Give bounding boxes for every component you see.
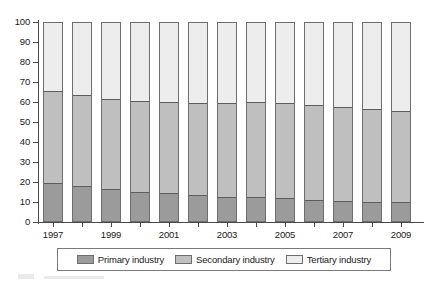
segment-tertiary bbox=[218, 23, 236, 103]
segment-secondary bbox=[334, 107, 352, 203]
bar-2008 bbox=[362, 22, 382, 222]
y-axis-tick bbox=[33, 202, 38, 203]
bar-2006 bbox=[304, 22, 324, 222]
x-axis-tick-label: 2003 bbox=[207, 229, 247, 240]
y-axis-tick-label: 70 bbox=[0, 77, 30, 86]
y-axis-tick-label: 80 bbox=[0, 57, 30, 66]
y-axis-tick-label: 50 bbox=[0, 117, 30, 126]
segment-tertiary bbox=[363, 23, 381, 109]
x-axis-tick-label: 2005 bbox=[265, 229, 305, 240]
legend-item-secondary: Secondary industry bbox=[175, 254, 275, 265]
x-axis-tick-label: 1999 bbox=[91, 229, 131, 240]
y-axis-tick-label: 90 bbox=[0, 37, 30, 46]
x-axis-tick-label: 2001 bbox=[149, 229, 189, 240]
segment-tertiary bbox=[102, 23, 120, 99]
y-axis-tick bbox=[33, 82, 38, 83]
segment-tertiary bbox=[160, 23, 178, 102]
x-axis-tick bbox=[227, 222, 228, 227]
segment-tertiary bbox=[44, 23, 62, 91]
x-axis-line bbox=[36, 222, 424, 223]
segment-secondary bbox=[160, 102, 178, 195]
segment-primary bbox=[334, 201, 352, 221]
scan-artifact bbox=[44, 276, 104, 279]
bar-2005 bbox=[275, 22, 295, 222]
bar-2003 bbox=[217, 22, 237, 222]
y-axis-tick-label: 20 bbox=[0, 177, 30, 186]
segment-primary bbox=[131, 192, 149, 221]
segment-tertiary bbox=[131, 23, 149, 101]
y-axis-tick bbox=[33, 162, 38, 163]
legend-swatch-secondary-icon bbox=[175, 255, 192, 264]
x-axis-tick bbox=[82, 222, 83, 227]
segment-primary bbox=[102, 189, 120, 221]
segment-primary bbox=[363, 202, 381, 221]
segment-tertiary bbox=[276, 23, 294, 103]
segment-primary bbox=[189, 195, 207, 221]
segment-secondary bbox=[102, 99, 120, 191]
bar-2007 bbox=[333, 22, 353, 222]
segment-secondary bbox=[44, 91, 62, 185]
segment-primary bbox=[73, 186, 91, 221]
x-axis-tick bbox=[372, 222, 373, 227]
x-axis-tick bbox=[285, 222, 286, 227]
segment-tertiary bbox=[189, 23, 207, 103]
y-axis-tick-label: 0 bbox=[0, 217, 30, 226]
y-axis-tick-label: 30 bbox=[0, 157, 30, 166]
legend-swatch-primary-icon bbox=[77, 255, 94, 264]
y-axis-tick bbox=[33, 62, 38, 63]
y-axis-line bbox=[38, 20, 39, 224]
y-axis-tick bbox=[33, 42, 38, 43]
segment-tertiary bbox=[73, 23, 91, 95]
x-axis-tick-label: 2009 bbox=[381, 229, 421, 240]
y-axis-tick-label: 100 bbox=[0, 17, 30, 26]
segment-secondary bbox=[189, 103, 207, 197]
x-axis-tick bbox=[256, 222, 257, 227]
y-axis-tick bbox=[33, 182, 38, 183]
segment-tertiary bbox=[247, 23, 265, 102]
legend-label-secondary: Secondary industry bbox=[196, 254, 275, 265]
segment-secondary bbox=[247, 102, 265, 199]
legend-item-tertiary: Tertiary industry bbox=[286, 254, 372, 265]
y-axis-tick-label: 10 bbox=[0, 197, 30, 206]
segment-secondary bbox=[392, 111, 410, 204]
legend-label-tertiary: Tertiary industry bbox=[307, 254, 372, 265]
x-axis-tick bbox=[401, 222, 402, 227]
bar-2000 bbox=[130, 22, 150, 222]
segment-tertiary bbox=[392, 23, 410, 111]
y-axis-tick bbox=[33, 22, 38, 23]
legend-swatch-tertiary-icon bbox=[286, 255, 303, 264]
bar-2001 bbox=[159, 22, 179, 222]
y-axis-tick bbox=[33, 222, 38, 223]
segment-primary bbox=[392, 202, 410, 221]
segment-secondary bbox=[305, 105, 323, 202]
segment-primary bbox=[160, 193, 178, 221]
stacked-bar-chart: 1009080706050403020100 19971999200120032… bbox=[0, 0, 445, 283]
x-axis-tick-label: 2007 bbox=[323, 229, 363, 240]
segment-secondary bbox=[363, 109, 381, 204]
segment-primary bbox=[44, 183, 62, 221]
segment-secondary bbox=[276, 103, 294, 200]
segment-secondary bbox=[218, 103, 236, 199]
x-axis-tick bbox=[314, 222, 315, 227]
x-axis-tick bbox=[140, 222, 141, 227]
x-axis-tick bbox=[343, 222, 344, 227]
bar-2009 bbox=[391, 22, 411, 222]
segment-primary bbox=[218, 197, 236, 221]
bar-1999 bbox=[101, 22, 121, 222]
y-axis-tick-label: 60 bbox=[0, 97, 30, 106]
segment-tertiary bbox=[305, 23, 323, 105]
bar-1997 bbox=[43, 22, 63, 222]
chart-legend: Primary industry Secondary industry Tert… bbox=[57, 248, 391, 271]
legend-label-primary: Primary industry bbox=[98, 254, 164, 265]
x-axis-tick bbox=[198, 222, 199, 227]
segment-secondary bbox=[131, 101, 149, 194]
y-axis-tick bbox=[33, 102, 38, 103]
y-axis-tick-label: 40 bbox=[0, 137, 30, 146]
segment-tertiary bbox=[334, 23, 352, 107]
segment-primary bbox=[305, 200, 323, 221]
segment-primary bbox=[276, 198, 294, 221]
y-axis-tick bbox=[33, 142, 38, 143]
x-axis-tick bbox=[53, 222, 54, 227]
x-axis-tick bbox=[111, 222, 112, 227]
bar-2002 bbox=[188, 22, 208, 222]
